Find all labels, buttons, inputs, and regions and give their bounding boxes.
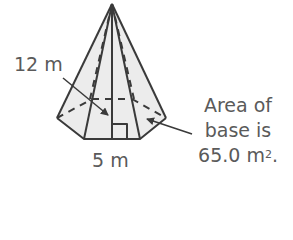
base-area-value: 65.0 m (198, 144, 265, 166)
base-area-exponent: 2 (265, 148, 272, 161)
base-area-line1: Area of (188, 93, 288, 118)
base-edge-label: 5 m (92, 151, 129, 170)
slant-height-label: 12 m (14, 55, 63, 74)
base-area-line2: base is (188, 118, 288, 143)
base-area-label: Area of base is 65.0 m2. (188, 93, 288, 168)
base-area-suffix: . (272, 144, 278, 166)
base-area-line3: 65.0 m2. (188, 143, 288, 168)
